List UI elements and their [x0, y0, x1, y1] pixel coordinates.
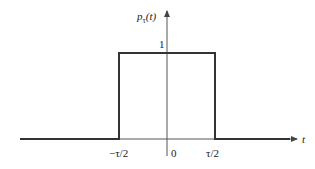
pulse-signal: [20, 53, 290, 139]
x-axis-label: t: [302, 133, 306, 145]
function-label: pτ(t): [136, 10, 156, 25]
tick-label-right: τ/2: [206, 147, 219, 159]
rectangular-pulse-diagram: pτ(t) 1 t −τ/2 0 τ/2: [0, 0, 315, 169]
tick-label-left: −τ/2: [109, 147, 128, 159]
tick-label-origin: 0: [171, 147, 177, 159]
amplitude-label: 1: [159, 38, 165, 50]
